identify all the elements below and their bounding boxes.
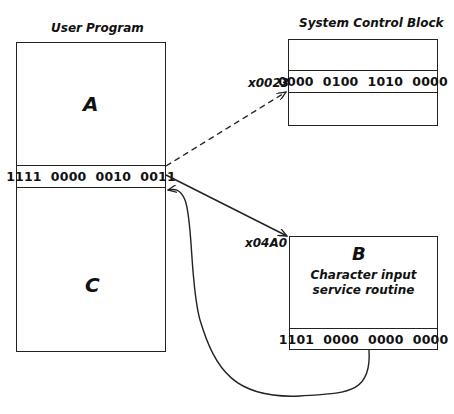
description-line-2: service routine <box>290 283 437 298</box>
trap-instruction-row: 1111 0000 0010 0011 <box>17 165 165 188</box>
service-routine-address-label: x04A0 <box>245 236 287 250</box>
scb-entry-row: 0000 0100 1010 0000 <box>289 70 437 93</box>
region-a-label: A <box>83 92 98 116</box>
dashed-arrow-to-scb <box>166 92 286 166</box>
scb-address-label: x0023 <box>248 76 289 90</box>
description-line-1: Character input <box>290 268 437 283</box>
region-b-label: B <box>352 243 366 264</box>
service-routine-description: Character input service routine <box>290 268 437 298</box>
system-control-block-box: 0000 0100 1010 0000 <box>288 39 438 126</box>
user-program-title: User Program <box>51 21 144 35</box>
system-control-block-title: System Control Block <box>299 16 444 30</box>
user-program-box: A 1111 0000 0010 0011 C <box>16 42 166 352</box>
region-c-label: C <box>85 273 100 297</box>
return-instruction-row: 1101 0000 0000 0000 <box>290 328 437 350</box>
service-routine-box: B Character input service routine 1101 0… <box>289 236 438 350</box>
arrow-to-service-routine <box>166 175 287 236</box>
